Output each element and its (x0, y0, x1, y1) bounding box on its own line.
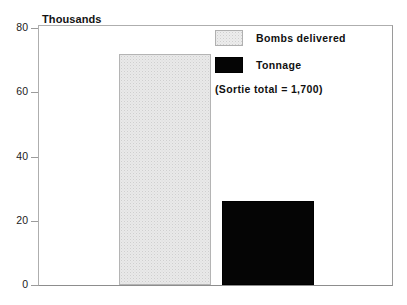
y-axis-title: Thousands (42, 13, 102, 25)
legend-item: Bombs delivered (215, 29, 385, 46)
legend-note: (Sortie total = 1,700) (215, 83, 385, 95)
bar-tonnage (222, 201, 314, 285)
y-axis-tick-label: 20 (16, 214, 28, 226)
solid-black-swatch-icon (215, 57, 243, 73)
bar-bombs-delivered (119, 54, 211, 285)
y-axis-tick-label: 40 (16, 150, 28, 162)
y-axis-tick-mark (31, 157, 38, 158)
y-axis-tick-mark (31, 221, 38, 222)
legend-item-label: Tonnage (256, 59, 301, 71)
y-axis: 806040200 (0, 0, 38, 305)
legend-item-label: Bombs delivered (256, 32, 346, 44)
legend-item: Tonnage (215, 56, 385, 73)
chart-legend: Bombs delivered Tonnage (Sortie total = … (215, 29, 385, 95)
y-axis-tick-mark (31, 28, 38, 29)
y-axis-tick-label: 80 (16, 21, 28, 33)
y-axis-tick-label: 0 (22, 278, 28, 290)
y-axis-tick-mark (31, 92, 38, 93)
y-axis-tick-mark (31, 285, 38, 286)
y-axis-tick-label: 60 (16, 85, 28, 97)
bar-chart-figure: 806040200 Thousands Bombs delivered Tonn… (0, 0, 407, 305)
dotted-grey-swatch-icon (215, 30, 243, 46)
